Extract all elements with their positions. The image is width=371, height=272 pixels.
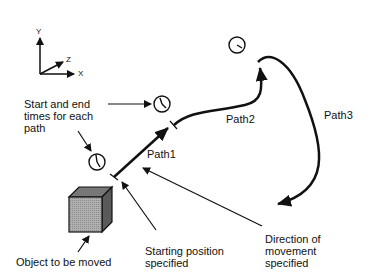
axis-z-label: Z — [66, 56, 71, 64]
cube-icon — [69, 187, 112, 232]
path3-curve — [258, 57, 319, 204]
object-label: Object to be moved — [16, 256, 111, 268]
diagram-drawing — [0, 0, 371, 272]
path3-label: Path3 — [324, 109, 353, 121]
times-label: Start and end times for each path — [24, 98, 93, 134]
clock-icon — [154, 96, 170, 112]
clock-icon — [229, 37, 245, 53]
axis-y-label: Y — [36, 28, 41, 36]
motion-path-diagram: Y Z X Start and end times for each path … — [0, 0, 371, 272]
direction-label: Direction of movement specified — [265, 233, 321, 269]
path2-label: Path2 — [226, 113, 255, 125]
axis-x-label: X — [78, 70, 83, 78]
clock-icon — [89, 154, 105, 170]
path1-label: Path1 — [147, 148, 176, 160]
starting-position-label: Starting position specified — [145, 245, 224, 269]
